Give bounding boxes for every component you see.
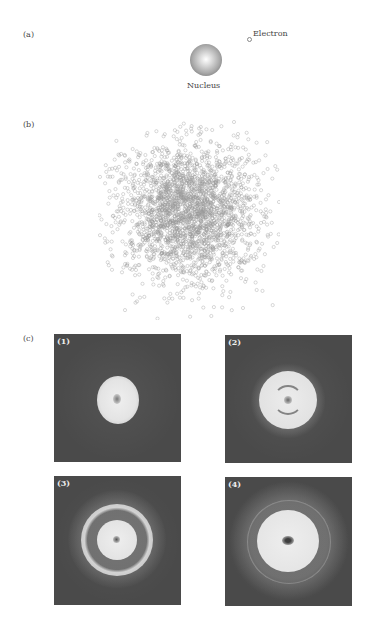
center-speckle (284, 396, 292, 404)
electron-cloud (98, 120, 280, 320)
electron-label: Electron (253, 29, 288, 38)
subpanel-2-label: (2) (228, 337, 241, 347)
panel-b-label: (b) (23, 120, 34, 129)
subpanel-4-label: (4) (228, 479, 241, 489)
nucleus-sphere (190, 44, 222, 76)
subpanel-4: (4) (225, 477, 352, 606)
subpanel-3-label: (3) (57, 478, 70, 488)
electron-icon (247, 37, 252, 42)
subpanel-2: (2) (225, 335, 352, 463)
subpanel-3: (3) (54, 476, 181, 605)
subpanel-1-label: (1) (57, 336, 70, 346)
center-spot (282, 536, 294, 545)
center-speckle (113, 536, 120, 543)
panel-a-label: (a) (23, 30, 34, 39)
center-speckle (113, 394, 121, 404)
panel-c-label: (c) (23, 334, 34, 343)
subpanel-1: (1) (54, 334, 181, 462)
nucleus-label: Nucleus (187, 81, 220, 90)
